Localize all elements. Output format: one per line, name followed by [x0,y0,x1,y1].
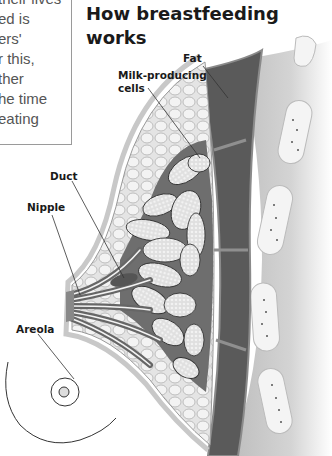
label-areola: Areola [16,323,54,336]
nipple [66,290,74,322]
label-line: Milk-producing [118,69,207,82]
label-nipple: Nipple [27,201,65,214]
rib [250,282,281,352]
label-duct: Duct [50,170,77,183]
breast-front-view [6,362,116,443]
leader-line-areola [38,334,74,379]
title-line: works [86,26,279,50]
label-fat: Fat [183,52,202,65]
label-line: cells [118,82,207,95]
diagram-title: How breastfeeding works [86,2,279,50]
nipple-outline [59,387,69,397]
title-line: How breastfeeding [86,2,279,26]
label-milk-producing-cells: Milk-producing cells [118,69,207,95]
